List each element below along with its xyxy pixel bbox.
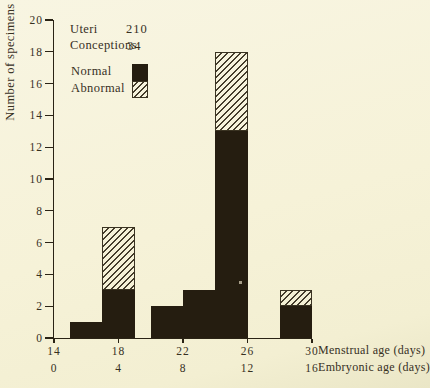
x-tick-label-embryonic: 12: [231, 361, 265, 375]
x-tick-label-embryonic: 0: [37, 361, 71, 375]
bar-normal-segment: [102, 290, 134, 338]
x-tick-label-menstrual: 18: [102, 344, 136, 358]
y-tick: [45, 210, 53, 211]
y-tick-label: 20: [9, 13, 43, 27]
x-tick-label-embryonic: 4: [102, 361, 136, 375]
x-axis-title-menstrual: Menstrual age (days): [318, 343, 425, 358]
figure: Number of specimens recovered 0246810121…: [0, 0, 430, 388]
bar-abnormal-segment: [215, 52, 247, 132]
x-tick: [118, 339, 119, 343]
legend-conceptions-value: 34: [127, 39, 142, 54]
y-tick: [45, 178, 53, 179]
y-tick-label: 4: [9, 267, 43, 281]
y-tick-label: 2: [9, 299, 43, 313]
legend-abnormal-label: Abnormal: [71, 81, 125, 96]
bar-normal-segment: [151, 306, 183, 338]
legend-abnormal-swatch: [132, 81, 148, 98]
x-tick-label-menstrual: 22: [166, 344, 200, 358]
bar-normal-segment: [215, 131, 247, 338]
bar-normal-segment: [280, 306, 312, 338]
y-tick: [45, 337, 53, 338]
y-tick: [45, 242, 53, 243]
bar-abnormal-segment: [280, 290, 312, 306]
y-tick: [45, 115, 53, 116]
x-tick: [311, 339, 312, 343]
x-tick: [247, 339, 248, 343]
y-tick-label: 16: [9, 77, 43, 91]
legend-uteri-value: 210: [126, 22, 148, 37]
y-tick: [45, 19, 53, 20]
x-axis-title-embryonic: Embryonic age (days): [318, 360, 430, 375]
y-tick: [45, 51, 53, 52]
legend-uteri-label: Uteri: [70, 22, 98, 37]
y-tick: [45, 83, 53, 84]
y-tick: [45, 306, 53, 307]
y-tick-label: 12: [9, 140, 43, 154]
print-artifact: [239, 281, 242, 284]
x-tick-label-embryonic: 8: [166, 361, 200, 375]
x-tick-label-menstrual: 14: [37, 344, 71, 358]
x-tick: [182, 339, 183, 343]
bar-normal-segment: [183, 290, 215, 338]
y-tick: [45, 274, 53, 275]
y-tick-label: 10: [9, 172, 43, 186]
x-tick-label-menstrual: 26: [231, 344, 265, 358]
y-tick-label: 18: [9, 45, 43, 59]
bar-normal-segment: [70, 322, 102, 338]
y-tick-label: 14: [9, 108, 43, 122]
y-tick-label: 6: [9, 236, 43, 250]
legend-normal-label: Normal: [71, 64, 112, 79]
y-tick: [45, 147, 53, 148]
legend-normal-swatch: [132, 64, 148, 81]
x-tick: [53, 339, 54, 343]
y-tick-label: 8: [9, 204, 43, 218]
y-tick-label: 0: [9, 331, 43, 345]
bar-abnormal-segment: [102, 227, 134, 291]
